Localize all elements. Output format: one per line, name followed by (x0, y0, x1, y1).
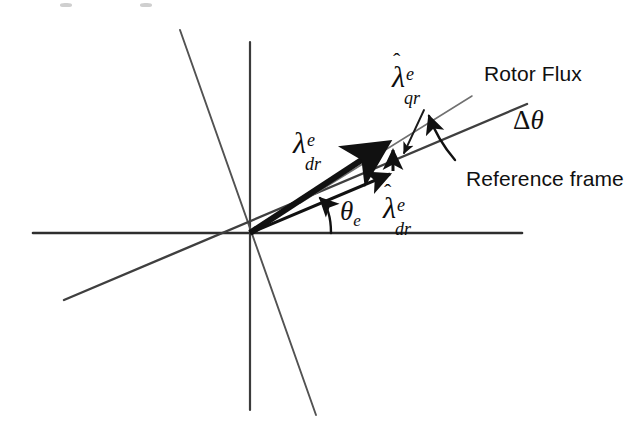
delta-theta-arc (429, 116, 455, 160)
lambda-qr-e-hat-label: ˆλeqr (392, 62, 405, 92)
rotor-flux-diagram: Rotor Flux Reference frame λedr ˆλeqr ˆλ… (0, 0, 637, 445)
subscript-qr: qr (404, 89, 420, 107)
rotor-flux-label: Rotor Flux (484, 63, 582, 84)
lambda-dr-e-label: λedr (293, 128, 306, 158)
reference-frame-label: Reference frame (466, 168, 624, 189)
lambda-qr-leader-line (404, 110, 424, 153)
subscript-e: e (353, 211, 361, 230)
superscript-e: e (397, 196, 405, 214)
lambda-dr-e-hat-label: ˆλedr (383, 193, 396, 223)
hat-accent-icon: ˆ (384, 181, 391, 203)
hat-accent-icon: ˆ (393, 50, 400, 72)
theta-glyph: θ (530, 105, 543, 135)
subscript-dr: dr (395, 220, 411, 238)
superscript-e: e (307, 131, 315, 149)
superscript-e: e (406, 65, 414, 83)
subscript-dr: dr (305, 155, 321, 173)
delta-theta-label: Δθ (513, 107, 544, 134)
delta-glyph: Δ (513, 105, 530, 135)
theta-e-label: θe (340, 198, 361, 225)
vector-lambda-dr-e-hat (250, 174, 390, 233)
theta-glyph: θ (340, 196, 353, 226)
